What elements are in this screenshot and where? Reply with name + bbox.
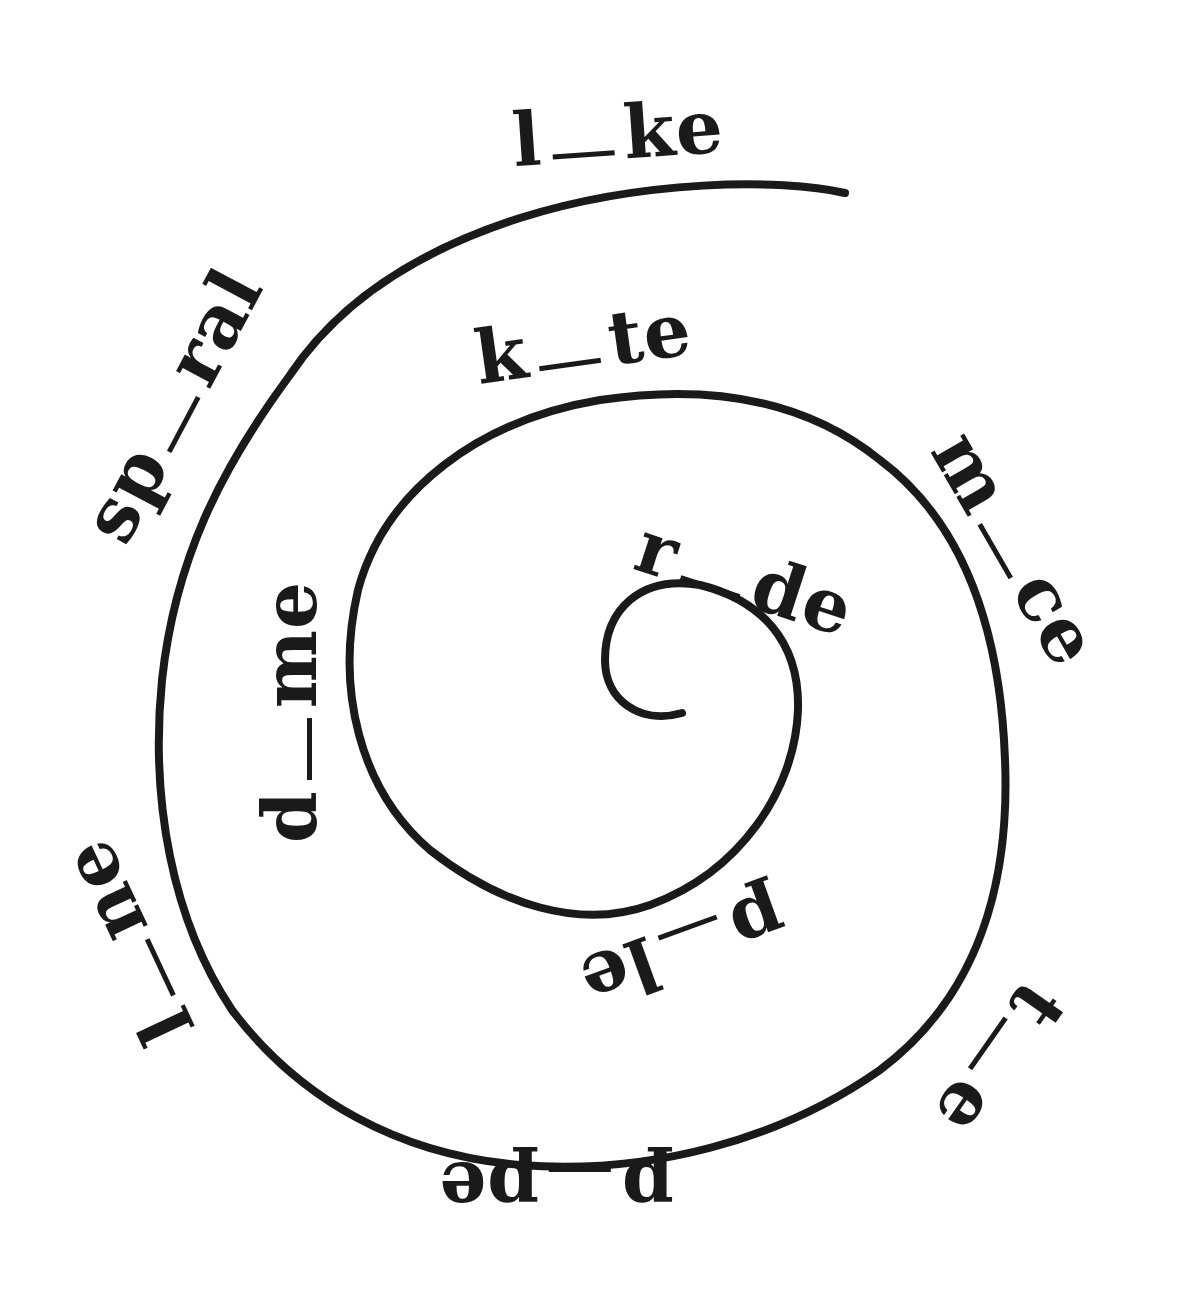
word-pipe-end: pe: [438, 1152, 539, 1226]
word-kite-end: te: [603, 291, 696, 376]
blank-line[interactable]: [307, 718, 312, 780]
blank-line[interactable]: [539, 358, 601, 372]
blank-line[interactable]: [553, 150, 615, 159]
word-pipe-start: p: [621, 1152, 674, 1226]
word-like-end: ke: [621, 89, 726, 170]
word-dime-end: me: [253, 581, 327, 708]
word-like: lke: [510, 89, 726, 178]
spiral-worksheet: lke spral kte mce rde dme ple te ppe lne: [0, 0, 1178, 1293]
blank-line[interactable]: [549, 1167, 611, 1172]
word-pipe: ppe: [438, 1152, 674, 1226]
blank-line[interactable]: [680, 575, 741, 599]
blank-line[interactable]: [658, 915, 718, 941]
word-kite-start: k: [470, 314, 532, 395]
word-dime-start: d: [253, 790, 327, 843]
word-dime: dme: [253, 581, 327, 843]
word-like-start: l: [510, 101, 544, 177]
